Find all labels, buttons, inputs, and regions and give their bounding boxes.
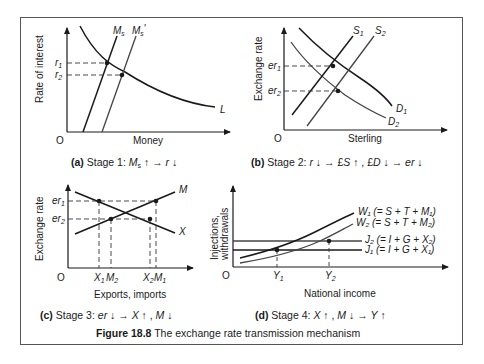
- x-axis-label: Exports, imports: [94, 289, 166, 300]
- panel-d-caption: (d) Stage 4: X ↑ , M ↓ → Y ↑: [255, 309, 386, 321]
- demand-curve-d2: [291, 42, 386, 118]
- y-axis-label-line2: withdrawals: [219, 208, 230, 261]
- money-supply-curve: [83, 36, 117, 132]
- label-x: X: [178, 226, 186, 237]
- tick-x1: X1: [93, 272, 105, 284]
- tick-y1: Y1: [273, 270, 284, 282]
- tick-y2: Y2: [325, 270, 336, 282]
- figure-canvas: r1 r2 Ms Ms' L O Money Rate of interest …: [0, 0, 484, 364]
- equilibrium-point-1: [331, 64, 336, 69]
- tick-x2: X2: [142, 272, 154, 284]
- label-d1: D1: [396, 103, 407, 115]
- origin-label: O: [222, 270, 230, 281]
- label-s1: S1: [353, 25, 364, 37]
- label-m: M: [179, 184, 188, 195]
- y-axis-label: Rate of interest: [34, 35, 45, 103]
- origin-label: O: [56, 135, 64, 146]
- panel-b-caption: (b) Stage 2: r ↓ → £S ↑ , £D ↓ → er ↓: [251, 156, 423, 168]
- label-ms-prime: Ms': [132, 23, 147, 37]
- panel-a: r1 r2 Ms Ms' L O Money Rate of interest …: [34, 23, 230, 169]
- equilibrium-point-2: [120, 73, 125, 78]
- label-w1: W₁ (= S + T + M₁): [358, 206, 436, 217]
- tick-er1: er1: [52, 195, 65, 207]
- panel-b: er1 er2 S1 S2 D1 D2 O Sterling Exchange …: [251, 25, 447, 168]
- tick-m1: M1: [154, 272, 166, 284]
- tick-r1: r1: [55, 57, 62, 69]
- label-d2: D2: [388, 116, 399, 128]
- y-axis-label: Exchange rate: [253, 36, 264, 101]
- tick-m2: M2: [106, 272, 118, 284]
- withdrawals-curve-w1: [240, 213, 354, 258]
- panel-c: er1 er2 X1 M2 X2 M1 M X O Exports, impor…: [34, 184, 193, 321]
- label-ms: Ms: [113, 25, 125, 37]
- tick-er2: er2: [268, 85, 281, 97]
- x-axis-label: National income: [304, 288, 376, 299]
- origin-label: O: [274, 133, 282, 144]
- label-w2: W₂ (= S + T + M₂): [356, 217, 435, 228]
- panel-c-caption: (c) Stage 3: er ↓ → X ↑ , M ↓: [40, 309, 173, 321]
- equilibrium-point-2: [336, 89, 341, 94]
- panel-a-caption: (a) Stage 1: Ms ↑ → r ↓: [71, 156, 177, 169]
- label-j1: J₁ (= I + G + X₁): [364, 244, 434, 255]
- tick-er1: er1: [268, 60, 281, 72]
- liquidity-curve: [80, 26, 215, 107]
- figure-caption: Figure 18.8 The exchange rate transmissi…: [96, 327, 360, 339]
- label-l: L: [220, 104, 226, 115]
- label-s2: S2: [375, 25, 386, 37]
- y-axis-label: Exchange rate: [34, 196, 45, 261]
- tick-er2: er2: [52, 213, 65, 225]
- origin-label: O: [57, 272, 65, 283]
- x-axis-label: Money: [133, 135, 163, 146]
- panel-d: W₁ (= S + T + M₁) W₂ (= S + T + M₂) J₂ (…: [209, 186, 448, 321]
- money-supply-shifted-curve: [102, 36, 136, 132]
- equilibrium-point-1: [105, 61, 110, 66]
- withdrawals-curve-w2: [240, 224, 353, 263]
- x-axis-label: Sterling: [348, 133, 382, 144]
- tick-r2: r2: [55, 69, 62, 81]
